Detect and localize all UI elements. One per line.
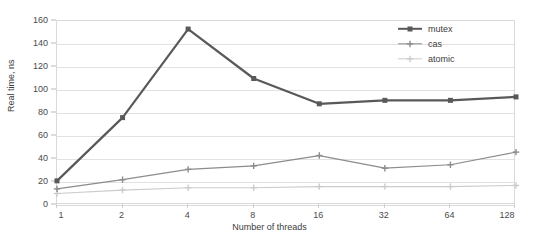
data-point-marker: [408, 27, 413, 32]
y-tick-label: 40: [38, 153, 48, 163]
data-point-marker: [316, 152, 322, 158]
data-point-marker: [513, 149, 519, 155]
y-axis: 020406080100120140160: [0, 20, 56, 204]
x-tick-label: 64: [444, 210, 454, 220]
data-point-marker: [407, 56, 413, 62]
series-line: [57, 185, 516, 193]
x-tick-mark: [253, 204, 254, 208]
y-axis-title: Real time, ns: [6, 59, 16, 112]
data-point-marker: [119, 177, 125, 183]
data-point-marker: [120, 115, 125, 120]
data-point-marker: [382, 183, 388, 189]
x-tick-mark: [56, 204, 57, 208]
x-tick-label: 16: [313, 210, 323, 220]
line-chart: 020406080100120140160 Real time, ns 1248…: [0, 0, 539, 243]
data-point-marker: [514, 94, 519, 99]
data-point-marker: [447, 183, 453, 189]
x-tick-label: 128: [499, 210, 514, 220]
legend-label-atomic: atomic: [428, 54, 455, 64]
x-tick-mark: [187, 204, 188, 208]
data-point-marker: [185, 185, 191, 191]
data-point-marker: [251, 185, 257, 191]
data-point-marker: [316, 183, 322, 189]
data-point-marker: [382, 98, 387, 103]
legend-label-cas: cas: [428, 39, 442, 49]
x-tick-mark: [514, 204, 515, 208]
y-tick-label: 120: [33, 61, 48, 71]
x-tick-label: 8: [250, 210, 255, 220]
data-point-marker: [55, 178, 60, 183]
data-point-marker: [251, 76, 256, 81]
legend-swatch-mutex: [398, 23, 422, 35]
legend-item-atomic: atomic: [398, 52, 508, 66]
data-point-marker: [513, 182, 519, 188]
legend-marker: [398, 38, 422, 50]
legend-swatch-atomic: [398, 53, 422, 65]
series-line: [57, 152, 516, 189]
y-tick-label: 0: [43, 199, 48, 209]
x-tick-mark: [318, 204, 319, 208]
x-tick-mark: [384, 204, 385, 208]
data-point-marker: [317, 101, 322, 106]
x-tick-label: 2: [119, 210, 124, 220]
series-atomic: [54, 182, 519, 196]
legend-item-cas: cas: [398, 37, 508, 51]
x-tick-label: 4: [185, 210, 190, 220]
legend-swatch-cas: [398, 38, 422, 50]
legend-marker: [398, 53, 422, 65]
legend-marker: [398, 23, 422, 35]
y-tick-label: 100: [33, 84, 48, 94]
data-point-marker: [185, 166, 191, 172]
y-tick-label: 20: [38, 176, 48, 186]
data-point-marker: [407, 41, 413, 47]
legend-label-mutex: mutex: [428, 24, 453, 34]
y-tick-label: 160: [33, 15, 48, 25]
y-tick-label: 140: [33, 38, 48, 48]
x-axis: 1248163264128: [56, 204, 515, 222]
legend: mutex cas atomic: [398, 19, 508, 67]
data-point-marker: [448, 98, 453, 103]
x-axis-title: Number of threads: [0, 222, 539, 232]
data-point-marker: [186, 27, 191, 32]
data-point-marker: [119, 187, 125, 193]
x-tick-mark: [449, 204, 450, 208]
data-point-marker: [382, 165, 388, 171]
x-tick-label: 32: [379, 210, 389, 220]
x-tick-mark: [122, 204, 123, 208]
y-tick-label: 80: [38, 107, 48, 117]
legend-item-mutex: mutex: [398, 22, 508, 36]
data-point-marker: [447, 162, 453, 168]
series-cas: [54, 149, 519, 192]
x-tick-label: 1: [58, 210, 63, 220]
data-point-marker: [251, 163, 257, 169]
y-tick-label: 60: [38, 130, 48, 140]
